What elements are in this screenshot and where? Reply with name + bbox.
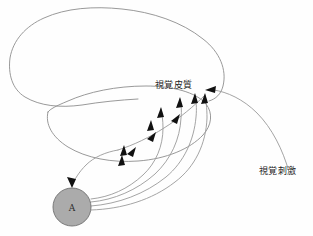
- arrowhead-feedforward-5: [147, 120, 154, 131]
- arrowhead-chain-1: [127, 147, 136, 157]
- node-a-label: A: [68, 203, 76, 213]
- arrowhead-feedforward-4: [157, 107, 164, 118]
- feedforward-path-3: [91, 99, 181, 202]
- arrowhead-feedforward-2: [191, 93, 198, 104]
- ascending-chain-path: [118, 96, 204, 150]
- arrowhead-feedback-into-node-a: [67, 177, 76, 188]
- arrowhead-feedforward-7: [118, 155, 125, 166]
- arrowhead-visual-stimulus: [205, 86, 216, 93]
- label-visual-cortex: 視覚皮質: [155, 81, 193, 90]
- cerebellum-outline: [47, 86, 210, 161]
- arrowhead-feedforward-6: [120, 145, 127, 156]
- arrowhead-feedforward-3: [176, 97, 183, 108]
- diagram-canvas: A: [0, 0, 313, 236]
- diagram-root: A 視覚皮質 視覚刺激: [0, 0, 313, 236]
- feedback-path-to-node-a: [72, 150, 118, 186]
- visual-stimulus-path: [214, 90, 289, 172]
- label-visual-stimulus: 視覚刺激: [259, 167, 297, 176]
- cerebral-cortex-outline: [10, 8, 225, 107]
